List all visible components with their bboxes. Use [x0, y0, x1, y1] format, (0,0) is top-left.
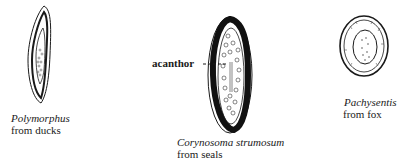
polymorphus-genus-label: Polymorphus — [11, 112, 70, 124]
pachysentis-egg-drawing — [340, 16, 388, 76]
corynosoma-egg-drawing — [208, 17, 252, 133]
polymorphus-host-label: from ducks — [11, 124, 61, 136]
corynosoma-host-label: from seals — [177, 148, 223, 160]
acanthor-label: acanthor — [152, 57, 194, 69]
corynosoma-genus-label: Corynosoma strumosum — [177, 136, 284, 148]
polymorphus-egg-drawing — [28, 6, 51, 103]
pachysentis-host-label: from fox — [343, 108, 382, 120]
pachysentis-genus-label: Pachysentis — [344, 96, 397, 108]
figure-canvas: acanthor Polymorphus from ducks Corynoso… — [0, 0, 404, 162]
